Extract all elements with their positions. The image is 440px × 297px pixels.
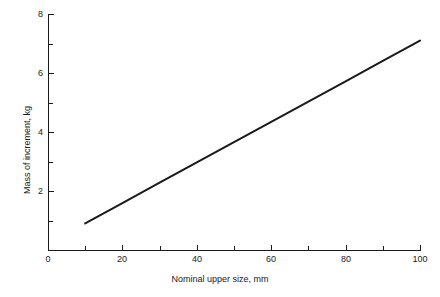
chart-figure: 0 20 40 60 80 100 2 4 6 8 Nominal upper … — [0, 0, 440, 297]
series-line-mass-of-increment — [85, 41, 420, 224]
data-line-layer — [0, 0, 440, 297]
